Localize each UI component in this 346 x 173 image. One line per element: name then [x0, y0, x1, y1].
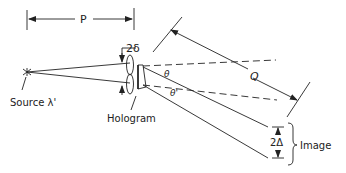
- q-dimension: [153, 17, 310, 117]
- label-hologram: Hologram: [107, 113, 156, 124]
- label-two-Delta: 2Δ: [270, 137, 283, 148]
- hologram-leader: [131, 96, 136, 110]
- source-leader: [22, 77, 26, 90]
- label-theta: θ: [164, 69, 170, 79]
- lens: [127, 55, 134, 94]
- label-image: Image: [300, 140, 331, 151]
- label-two-delta: 2δ: [126, 42, 140, 55]
- image-brace: [288, 123, 297, 165]
- label-p: P: [80, 13, 87, 26]
- source-point: [22, 68, 31, 90]
- hologram-diagram: P 2δ θ θ' Q Source λ' Hologram 2Δ Image: [0, 0, 346, 173]
- label-q: Q: [250, 70, 259, 83]
- incident-rays: [27, 63, 130, 83]
- label-source: Source λ': [10, 97, 56, 108]
- label-theta-prime: θ': [170, 88, 178, 98]
